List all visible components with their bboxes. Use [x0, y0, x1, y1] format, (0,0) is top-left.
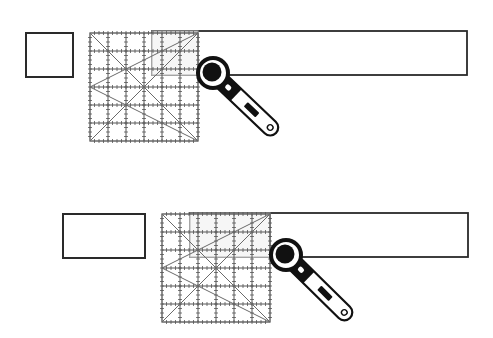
quilting-ruler	[160, 212, 272, 324]
step-1-group	[26, 31, 467, 143]
cutter-blade	[276, 245, 295, 264]
step-2-group	[63, 212, 468, 324]
cut-square-piece	[26, 33, 73, 77]
rotary-cutting-diagram	[0, 0, 493, 338]
cutter-blade	[203, 63, 222, 82]
quilting-ruler	[88, 31, 200, 143]
cut-rectangle-piece	[63, 214, 145, 258]
